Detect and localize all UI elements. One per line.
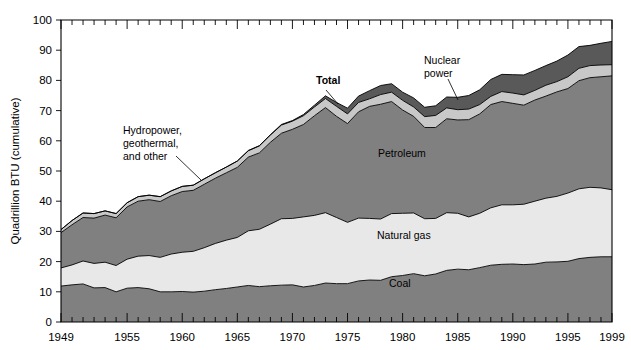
x-tick-label-1949: 1949: [48, 331, 74, 343]
petroleum-label-line-0: Petroleum: [378, 147, 426, 159]
nuclear-power-label-line-1: power: [424, 67, 453, 79]
x-tick-label-1960: 1960: [169, 331, 195, 343]
x-tick-label-1955: 1955: [114, 331, 140, 343]
nuclear-power-label-line-0: Nuclear: [424, 54, 461, 66]
y-tick-label-20: 20: [39, 256, 52, 268]
y-tick-label-100: 100: [33, 14, 52, 26]
natural-gas-label: Natural gas: [377, 229, 431, 241]
hydropower-label: Hydropower,geothermal,and other: [123, 124, 182, 162]
y-axis-title-text: Quadrillion BTU (cumulative): [9, 97, 21, 244]
energy-consumption-area-chart: 0102030405060708090100194919551960196519…: [0, 0, 631, 350]
y-tick-label-10: 10: [39, 286, 52, 298]
hydropower-label-line-0: Hydropower,: [123, 124, 182, 136]
nuclear-power-label: Nuclearpower: [424, 54, 461, 79]
total-label-line-0: Total: [316, 74, 340, 86]
x-tick-label-1999: 1999: [599, 331, 625, 343]
hydropower-label-line-1: geothermal,: [123, 137, 178, 149]
y-tick-label-90: 90: [39, 44, 52, 56]
x-tick-label-1980: 1980: [390, 331, 416, 343]
chart-canvas: 0102030405060708090100194919551960196519…: [0, 0, 631, 350]
x-tick-label-1990: 1990: [500, 331, 526, 343]
y-tick-label-0: 0: [46, 316, 52, 328]
x-tick-label-1970: 1970: [280, 331, 306, 343]
x-tick-label-1995: 1995: [555, 331, 581, 343]
coal-label: Coal: [389, 277, 411, 289]
y-tick-label-30: 30: [39, 225, 52, 237]
natural-gas-label-line-0: Natural gas: [377, 229, 431, 241]
y-axis-title: Quadrillion BTU (cumulative): [9, 97, 21, 244]
x-tick-label-1985: 1985: [445, 331, 471, 343]
y-tick-label-70: 70: [39, 105, 52, 117]
y-tick-label-60: 60: [39, 135, 52, 147]
y-tick-label-40: 40: [39, 195, 52, 207]
y-tick-label-80: 80: [39, 74, 52, 86]
hydropower-label-line-2: and other: [123, 150, 168, 162]
y-tick-label-50: 50: [39, 165, 52, 177]
x-tick-label-1965: 1965: [225, 331, 251, 343]
hydropower-label-leader-line: [176, 156, 201, 180]
coal-label-line-0: Coal: [389, 277, 411, 289]
x-tick-label-1975: 1975: [335, 331, 361, 343]
petroleum-label: Petroleum: [378, 147, 426, 159]
total-label: Total: [316, 74, 340, 86]
